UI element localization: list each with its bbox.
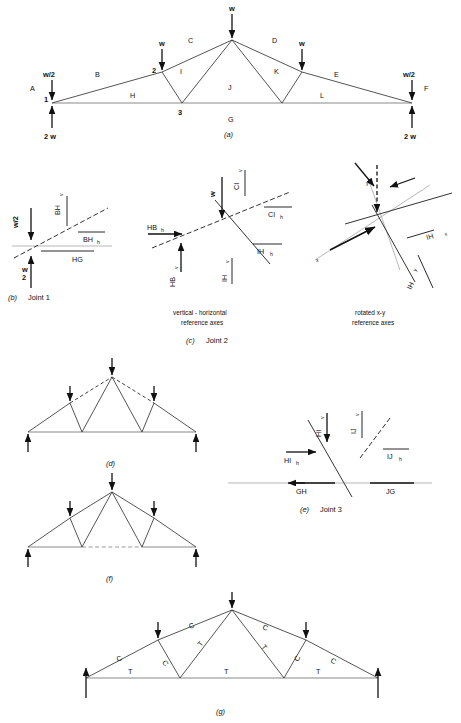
panel-f: (f)	[28, 473, 196, 583]
joint2r-ihy-subscript: y	[412, 267, 419, 272]
truss-web-2	[182, 40, 232, 103]
interior-label-H: H	[130, 91, 135, 100]
panel-c-note-left-line2: reference axes	[181, 319, 223, 326]
joint2r-ihy-label: IH	[405, 280, 416, 290]
joint2-hbh-subscript: h	[161, 227, 164, 233]
load-label-left-panel: w	[158, 39, 165, 48]
truss-web-1	[162, 72, 182, 103]
joint1-bhh-subscript: h	[97, 239, 100, 245]
joint2r-web-line	[372, 205, 415, 282]
paneld-rafter-B	[28, 403, 70, 432]
panel-a-caption: (a)	[224, 130, 234, 139]
panel-c-subject: Joint 2	[206, 336, 228, 345]
space-label-F: F	[424, 84, 429, 93]
load-label-right-panel: w	[298, 39, 305, 48]
reaction-label-right: 2 w	[404, 132, 416, 141]
panel-e: HI v IJ v HI h IJ h GH JG (e) Joint 3	[228, 411, 432, 514]
joint2-civ-label: CI	[232, 183, 241, 190]
panel-b-subject: Joint 1	[28, 293, 50, 302]
panelf-web-2	[82, 492, 112, 547]
panel-c-note-right-line1: rotated x-y	[355, 309, 386, 317]
space-label-A: A	[30, 84, 35, 93]
figure-root: w w w w/2 w/2 2 w 2 w A B C D E F H I J …	[0, 0, 461, 723]
panel-c-caption: (c)	[186, 336, 195, 345]
panel-d-caption: (d)	[106, 459, 116, 468]
figure-svg: w w w w/2 w/2 2 w 2 w A B C D E F H I J …	[0, 0, 461, 723]
joint2-hbh-label: HB	[147, 223, 157, 232]
joint1-load-label: w/2	[11, 216, 20, 229]
panelg-force-top-4: C	[329, 656, 338, 666]
joint3-ijh-label: IJ	[387, 452, 393, 461]
joint3-hiv-subscript: v	[319, 416, 325, 419]
panel-g-caption: (g)	[216, 707, 226, 716]
panel-c-left: w HB h HB v CI v CI h IH h IH v vertical…	[147, 169, 292, 326]
space-label-B: B	[95, 70, 100, 79]
joint3-gh-label: GH	[296, 487, 307, 496]
paneld-web-1	[70, 403, 82, 432]
joint3-ijv-subscript: v	[354, 413, 360, 416]
panelf-web-3	[112, 492, 142, 547]
truss-rafter-E	[302, 72, 412, 103]
joint2-rafter-line	[152, 192, 290, 248]
joint2r-rafter-line	[345, 193, 452, 224]
panel-d: (d)	[28, 358, 196, 468]
joint2r-ihx-subscript: x	[444, 230, 449, 237]
joint2-civ-subscript: v	[237, 169, 243, 172]
paneld-web-3	[112, 377, 142, 432]
joint2-ihh-label: IH	[257, 247, 264, 256]
joint2-load-label: w	[208, 191, 217, 198]
joint1-hg-label: HG	[72, 255, 83, 264]
panel-c-note-right-line2: reference axes	[352, 319, 394, 326]
space-label-C: C	[188, 36, 193, 45]
truss-web-4	[282, 72, 302, 103]
panel-e-caption: (e)	[300, 505, 310, 514]
load-label-right-end: w/2	[402, 70, 415, 79]
panel-b: w/2 2 w BH v BH h HG (b) Joint 1	[8, 193, 112, 302]
space-label-D: D	[272, 36, 277, 45]
joint2-ihv-label: IH	[220, 275, 229, 282]
joint3-ijh-subscript: h	[399, 456, 402, 462]
interior-label-I: I	[180, 67, 182, 76]
panelf-rafter-B	[28, 518, 70, 547]
joint-number-1: 1	[44, 95, 48, 104]
panelg-force-bottom-3: T	[316, 667, 321, 676]
joint2-ihh-subscript: h	[270, 251, 273, 257]
joint2-cih-subscript: h	[280, 214, 283, 220]
paneld-web-2	[82, 377, 112, 432]
interior-label-K: K	[274, 67, 279, 76]
joint2r-ihy-bar	[418, 255, 433, 288]
paneld-rafter-D-dashed	[112, 377, 154, 403]
joint2r-y-axis	[368, 178, 400, 270]
joint2r-diagonal-arrow-right	[390, 178, 415, 187]
panelg-force-top-2: C	[187, 621, 195, 631]
space-label-E: E	[334, 70, 339, 79]
load-label-apex: w	[228, 4, 235, 13]
joint2r-x-force-arrow	[330, 227, 375, 250]
joint3-hiv-label: HI	[314, 430, 323, 437]
panel-b-caption: (b)	[8, 293, 18, 302]
joint3-web-line-right	[360, 418, 390, 458]
panelf-rafter-C	[70, 492, 112, 518]
joint2r-diagonal-arrow-upper	[355, 163, 374, 186]
load-label-left-end: w/2	[42, 70, 55, 79]
joint2r-x-axis-label: x	[316, 257, 319, 263]
panel-a: w w w w/2 w/2 2 w 2 w A B C D E F H I J …	[30, 4, 429, 141]
joint1-bhh-label: BH	[83, 235, 93, 244]
joint3-jg-label: JG	[386, 487, 396, 496]
panel-c-right: x y IH x IH y rotated x-y reference axes…	[186, 163, 452, 345]
paneld-rafter-E	[154, 403, 196, 432]
joint-number-3: 3	[178, 108, 182, 117]
panel-f-caption: (f)	[106, 574, 114, 583]
panelf-rafter-E	[154, 518, 196, 547]
joint2-hbv-label: HB	[168, 277, 177, 287]
truss-rafter-B	[52, 72, 162, 103]
paneld-rafter-C-dashed	[70, 377, 112, 403]
panelg-force-top-3: C	[261, 623, 269, 633]
joint2r-ihx-label: IH	[425, 231, 434, 242]
panel-c-note-left-line1: vertical - horizontal	[173, 309, 227, 316]
interior-label-L: L	[320, 91, 324, 100]
panelg-force-bottom-2: T	[224, 667, 229, 676]
joint3-hih-subscript: h	[296, 460, 299, 466]
truss-rafter-D	[232, 40, 302, 72]
joint-number-2: 2	[152, 66, 156, 75]
